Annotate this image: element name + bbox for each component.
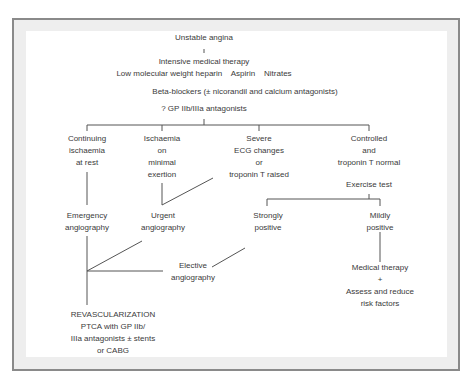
node-continuing-ischaemia: Continuing ischaemia at rest [68, 133, 106, 169]
node-unstable-angina: Unstable angina [175, 32, 233, 44]
therapy-drugs: Low molecular weight heparin Aspirin Nit… [116, 68, 291, 80]
node-medical-therapy: Medical therapy + Assess and reduce risk… [346, 262, 414, 310]
node-emergency-angiography: Emergency angiography [65, 210, 109, 234]
node-mildly-positive: Mildly positive [366, 210, 393, 234]
node-ischaemia-minimal-exertion: Ischaemia on minimal exertion [144, 133, 180, 181]
therapy-beta-blockers: Beta-blockers (± nicorandil and calcium … [152, 86, 337, 98]
therapy-gp-antagonists: ? GP IIb/IIIa antagonists [161, 103, 247, 115]
node-severe-ecg: Severe ECG changes or troponin T raised [229, 133, 289, 181]
node-elective-angiography: Elective angiography [171, 260, 215, 284]
node-strongly-positive: Strongly positive [253, 210, 282, 234]
node-intensive-therapy: Intensive medical therapy Low molecular … [116, 56, 291, 80]
therapy-title: Intensive medical therapy [116, 56, 291, 68]
node-controlled: Controlled and troponin T normal [338, 133, 400, 169]
node-exercise-test: Exercise test [346, 179, 392, 191]
node-revascularization: REVASCULARIZATION PTCA with GP IIb/ IIIa… [71, 309, 156, 357]
node-urgent-angiography: Urgent angiography [141, 210, 185, 234]
